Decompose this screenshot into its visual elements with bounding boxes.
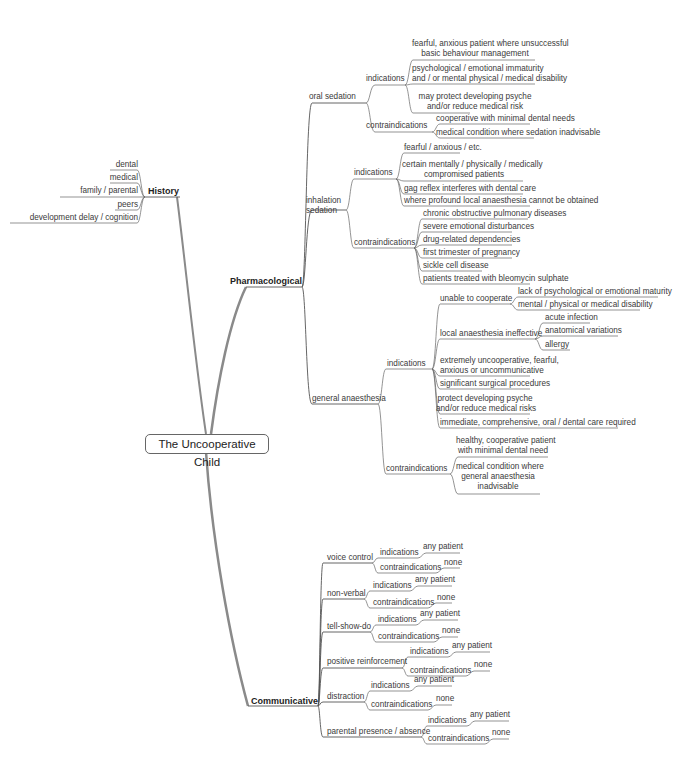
text-line: may protect developing psyche [419,92,532,101]
nv-ind-value[interactable]: any patient [415,575,455,585]
ga-ind-other-1[interactable]: extremely uncooperative, fearful,anxious… [440,356,559,376]
technique-parental-presence[interactable]: parental presence / absence [327,727,430,737]
os-indication-3[interactable]: may protect developing psycheand/or redu… [412,92,538,112]
text-line: inhalation [306,196,341,205]
general-anaesthesia-node[interactable]: general anaesthesia [312,394,386,404]
text-line: and/or reduce medical risk [427,102,523,111]
is-indication-3[interactable]: gag reflex interferes with dental care [404,184,536,194]
ga-contraindications[interactable]: contraindications [386,464,447,474]
history-item-development[interactable]: development delay / cognition [8,213,138,223]
pp-ind-value[interactable]: any patient [470,710,510,720]
pr-contra-value[interactable]: none [474,660,492,670]
is-contra-1[interactable]: chronic obstructive pulmonary diseases [423,209,566,219]
technique-voice-control[interactable]: voice control [327,553,373,563]
is-contraindications[interactable]: contraindications [354,238,415,248]
text-line: inadvisable [478,482,519,491]
pr-indications[interactable]: indications [410,647,449,657]
dis-contra-value[interactable]: none [436,694,454,704]
text-line: and / or mental physical / medical disab… [412,74,567,83]
tsd-indications[interactable]: indications [378,615,417,625]
ga-utc-2[interactable]: mental / physical or medical disability [518,300,653,310]
root-node[interactable]: The Uncooperative Child [145,434,269,454]
is-indication-4[interactable]: where profound local anaesthesia cannot … [404,196,598,206]
dis-indications[interactable]: indications [371,681,410,691]
os-contra-1[interactable]: cooperative with minimal dental needs [436,114,575,124]
text-line: sedation [306,206,337,215]
tsd-contra-value[interactable]: none [442,626,460,636]
ga-la-2[interactable]: anatomical variations [545,326,622,336]
nv-indications[interactable]: indications [373,581,412,591]
ga-contra-2[interactable]: medical condition wheregeneral anaesthes… [456,462,540,492]
branch-pharmacological[interactable]: Pharmacological [230,276,302,286]
text-line: certain mentally / physically / medicall… [402,160,543,169]
text-line: medical condition where [456,462,544,471]
pp-contraindications[interactable]: contraindications [428,734,489,744]
ga-ind-other-3[interactable]: protect developing psycheand/or reduce m… [436,394,534,414]
history-item-medical[interactable]: medical [90,173,138,183]
is-indication-1[interactable]: fearful / anxious / etc. [404,143,482,153]
dis-ind-value[interactable]: any patient [414,675,454,685]
vc-indications[interactable]: indications [380,548,419,558]
ga-ind-other-4[interactable]: immediate, comprehensive, oral / dental … [440,418,636,428]
technique-distraction[interactable]: distraction [327,692,364,702]
os-indication-1[interactable]: fearful, anxious patient where unsuccess… [412,39,538,59]
ga-ind-other-2[interactable]: significant surgical procedures [440,379,550,389]
pp-indications[interactable]: indications [428,716,467,726]
tsd-ind-value[interactable]: any patient [420,609,460,619]
nv-contra-value[interactable]: none [437,593,455,603]
history-item-family[interactable]: family / parental [58,186,138,196]
is-contra-3[interactable]: drug-related dependencies [423,235,520,245]
ga-contra-1[interactable]: healthy, cooperative patientwith minimal… [456,436,550,456]
oral-sedation-node[interactable]: oral sedation [309,92,356,102]
nv-contraindications[interactable]: contraindications [373,598,434,608]
technique-tell-show-do[interactable]: tell-show-do [327,622,371,632]
is-indications[interactable]: indications [354,168,393,178]
pp-contra-value[interactable]: none [492,728,510,738]
text-line: basic behaviour management [421,49,528,58]
ga-utc-1[interactable]: lack of psychological or emotional matur… [518,287,672,297]
tsd-contraindications[interactable]: contraindications [378,632,439,642]
text-line: general anaesthesia [461,472,535,481]
is-contra-6[interactable]: patients treated with bleomycin sulphate [423,274,569,284]
text-line: anxious or uncommunicative [440,366,544,375]
os-contra-2[interactable]: medical condition where sedation inadvis… [436,128,600,138]
is-contra-4[interactable]: first trimester of pregnancy [423,248,520,258]
vc-ind-value[interactable]: any patient [423,542,463,552]
oral-sedation-indications[interactable]: indications [366,74,405,84]
text-line: extremely uncooperative, fearful, [440,356,559,365]
ga-unable-to-cooperate[interactable]: unable to cooperate [440,294,512,304]
text-line: with minimal dental need [458,446,548,455]
branch-history[interactable]: History [148,186,179,196]
text-line: protect developing psyche [437,394,532,403]
history-item-dental[interactable]: dental [100,160,138,170]
oral-sedation-contraindications[interactable]: contraindications [366,121,427,131]
inhalation-sedation-node[interactable]: inhalationsedation [306,196,341,216]
dis-contraindications[interactable]: contraindications [371,700,432,710]
ga-la-ineffective[interactable]: local anaesthesia ineffective [440,329,542,339]
text-line: fearful, anxious patient where unsuccess… [412,39,569,48]
history-item-peers[interactable]: peers [100,200,138,210]
pr-ind-value[interactable]: any patient [452,641,492,651]
technique-positive-reinforcement[interactable]: positive reinforcement [327,657,407,667]
ga-la-3[interactable]: allergy [545,340,569,350]
is-contra-2[interactable]: severe emotional disturbances [423,222,534,232]
is-indication-2[interactable]: certain mentally / physically / medicall… [402,160,526,180]
branch-communicative[interactable]: Communicative [251,696,318,706]
ga-la-1[interactable]: acute infection [545,313,598,323]
vc-contra-value[interactable]: none [444,558,462,568]
ga-indications[interactable]: indications [387,359,426,369]
text-line: and/or reduce medical risks [436,404,536,413]
vc-contraindications[interactable]: contraindications [380,563,441,573]
text-line: psychological / emotional immaturity [412,64,544,73]
is-contra-5[interactable]: sickle cell disease [423,261,489,271]
technique-non-verbal[interactable]: non-verbal [327,589,366,599]
text-line: compromised patients [424,170,504,179]
text-line: healthy, cooperative patient [456,436,556,445]
os-indication-2[interactable]: psychological / emotional immaturityand … [412,64,538,84]
